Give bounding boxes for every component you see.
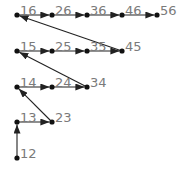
node-label-26: 26 bbox=[55, 4, 72, 17]
node-56 bbox=[154, 12, 159, 17]
node-16 bbox=[14, 12, 19, 17]
node-label-23: 23 bbox=[55, 111, 72, 124]
node-13 bbox=[14, 119, 19, 124]
node-label-34: 34 bbox=[90, 76, 107, 89]
node-label-56: 56 bbox=[160, 4, 177, 17]
node-15 bbox=[14, 48, 19, 53]
node-23 bbox=[49, 119, 54, 124]
node-label-36: 36 bbox=[90, 4, 107, 17]
node-12 bbox=[14, 155, 19, 160]
node-label-25: 25 bbox=[55, 40, 72, 53]
node-36 bbox=[84, 12, 89, 17]
node-label-35: 35 bbox=[90, 40, 107, 53]
node-label-14: 14 bbox=[20, 76, 37, 89]
node-label-24: 24 bbox=[55, 76, 72, 89]
node-45 bbox=[119, 48, 124, 53]
node-14 bbox=[14, 84, 19, 89]
node-label-15: 15 bbox=[20, 40, 37, 53]
node-26 bbox=[49, 12, 54, 17]
node-label-12: 12 bbox=[20, 147, 37, 160]
node-35 bbox=[84, 48, 89, 53]
node-34 bbox=[84, 84, 89, 89]
node-label-16: 16 bbox=[20, 4, 37, 17]
node-label-46: 46 bbox=[125, 4, 142, 17]
graph-canvas: 121323142434152535451626364656 bbox=[0, 0, 179, 170]
node-46 bbox=[119, 12, 124, 17]
node-24 bbox=[49, 84, 54, 89]
node-label-13: 13 bbox=[20, 111, 37, 124]
node-label-45: 45 bbox=[125, 40, 142, 53]
node-25 bbox=[49, 48, 54, 53]
